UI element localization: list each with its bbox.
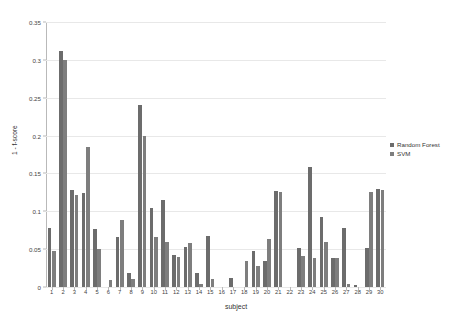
bar-svm-subject-12 bbox=[177, 257, 181, 287]
bar-random-forest-subject-30 bbox=[376, 189, 380, 287]
x-axis-tick-mark bbox=[256, 287, 257, 290]
x-axis-tick-mark bbox=[131, 287, 132, 290]
bar-random-forest-subject-9 bbox=[138, 105, 142, 287]
bar-random-forest-subject-21 bbox=[274, 191, 278, 287]
bar-random-forest-subject-4 bbox=[82, 193, 86, 287]
chart-figure: 00.050.10.150.20.250.30.35 1 - f-score s… bbox=[0, 0, 472, 330]
bar-svm-subject-2 bbox=[63, 60, 67, 287]
y-axis-tick-label: 0.15 bbox=[29, 170, 41, 177]
bar-random-forest-subject-29 bbox=[365, 248, 369, 287]
bar-random-forest-subject-1 bbox=[48, 228, 52, 287]
x-axis-tick-mark bbox=[97, 287, 98, 290]
gridline bbox=[46, 22, 386, 23]
plot-area: 00.050.10.150.20.250.30.35 bbox=[46, 22, 386, 287]
bar-svm-subject-15 bbox=[211, 279, 215, 287]
bar-random-forest-subject-11 bbox=[161, 200, 165, 287]
x-axis-tick-mark bbox=[324, 287, 325, 290]
y-axis-tick-label: 0.2 bbox=[32, 132, 41, 139]
bar-random-forest-subject-26 bbox=[331, 258, 335, 287]
bar-random-forest-subject-10 bbox=[150, 208, 154, 287]
bar-random-forest-subject-24 bbox=[308, 167, 312, 287]
x-axis-tick-mark bbox=[210, 287, 211, 290]
x-axis-tick-mark bbox=[165, 287, 166, 290]
y-axis-tick-label: 0.3 bbox=[32, 56, 41, 63]
y-axis-tick-mark bbox=[43, 173, 46, 174]
x-axis-tick-mark bbox=[369, 287, 370, 290]
bar-svm-subject-4 bbox=[86, 147, 90, 287]
bar-svm-subject-23 bbox=[301, 256, 305, 287]
bar-random-forest-subject-19 bbox=[252, 251, 256, 287]
legend-swatch-icon bbox=[390, 143, 394, 147]
x-axis-tick-mark bbox=[380, 287, 381, 290]
bar-random-forest-subject-12 bbox=[172, 255, 176, 287]
bar-svm-subject-3 bbox=[75, 195, 79, 287]
gridline bbox=[46, 173, 386, 174]
x-axis-tick-mark bbox=[233, 287, 234, 290]
bar-random-forest-subject-14 bbox=[195, 273, 199, 287]
bar-random-forest-subject-20 bbox=[263, 261, 267, 287]
y-axis-tick-label: 0.1 bbox=[32, 208, 41, 215]
bar-svm-subject-7 bbox=[120, 220, 124, 287]
chart-legend: Random ForestSVM bbox=[390, 141, 440, 159]
x-axis-tick-mark bbox=[86, 287, 87, 290]
bar-random-forest-subject-2 bbox=[59, 51, 63, 287]
x-axis-tick-mark bbox=[120, 287, 121, 290]
legend-item[interactable]: Random Forest bbox=[390, 141, 440, 148]
x-axis-tick-mark bbox=[301, 287, 302, 290]
x-axis-tick-mark bbox=[154, 287, 155, 290]
y-axis-tick-mark bbox=[43, 59, 46, 60]
y-axis-tick-mark bbox=[43, 135, 46, 136]
x-axis-tick-mark bbox=[188, 287, 189, 290]
gridline bbox=[46, 60, 386, 61]
bar-random-forest-subject-5 bbox=[93, 229, 97, 287]
x-axis-tick-mark bbox=[358, 287, 359, 290]
x-axis-tick-mark bbox=[142, 287, 143, 290]
x-axis-tick-mark bbox=[278, 287, 279, 290]
bar-svm-subject-6 bbox=[109, 280, 113, 287]
bar-svm-subject-18 bbox=[245, 261, 249, 288]
bar-svm-subject-29 bbox=[369, 192, 373, 287]
bar-svm-subject-19 bbox=[256, 266, 260, 287]
gridline bbox=[46, 98, 386, 99]
legend-swatch-icon bbox=[390, 152, 394, 156]
bar-random-forest-subject-13 bbox=[184, 247, 188, 287]
bar-random-forest-subject-7 bbox=[116, 237, 120, 287]
y-axis-title: 1 - f-score bbox=[11, 125, 18, 155]
bar-random-forest-subject-17 bbox=[229, 278, 233, 287]
y-axis-tick-label: 0.35 bbox=[29, 19, 41, 26]
bar-svm-subject-10 bbox=[154, 237, 158, 287]
bar-svm-subject-21 bbox=[279, 192, 283, 287]
bar-random-forest-subject-3 bbox=[70, 190, 74, 287]
y-axis-tick-mark bbox=[43, 211, 46, 212]
bar-svm-subject-13 bbox=[188, 243, 192, 287]
bar-svm-subject-8 bbox=[131, 279, 135, 287]
legend-item-label: Random Forest bbox=[397, 141, 440, 148]
x-axis-tick-mark bbox=[176, 287, 177, 290]
y-axis-tick-label: 0 bbox=[38, 284, 41, 291]
bar-random-forest-subject-27 bbox=[342, 228, 346, 287]
gridline bbox=[46, 211, 386, 212]
y-axis-tick-mark bbox=[43, 97, 46, 98]
y-axis-tick-mark bbox=[43, 287, 46, 288]
bar-svm-subject-25 bbox=[324, 242, 328, 287]
bar-random-forest-subject-25 bbox=[320, 217, 324, 287]
bar-svm-subject-9 bbox=[143, 136, 147, 287]
bar-random-forest-subject-8 bbox=[127, 273, 131, 287]
legend-item-label: SVM bbox=[397, 150, 410, 157]
legend-item[interactable]: SVM bbox=[390, 150, 440, 157]
x-axis-title: subject bbox=[0, 303, 472, 310]
x-axis-tick-mark bbox=[335, 287, 336, 290]
x-axis-tick-mark bbox=[290, 287, 291, 290]
x-axis-tick-mark bbox=[267, 287, 268, 290]
bar-svm-subject-24 bbox=[313, 258, 317, 287]
x-axis-tick-mark bbox=[74, 287, 75, 290]
x-axis-tick-mark bbox=[312, 287, 313, 290]
x-axis-tick-mark bbox=[63, 287, 64, 290]
bar-random-forest-subject-15 bbox=[206, 236, 210, 287]
x-axis-tick-mark bbox=[108, 287, 109, 290]
bar-svm-subject-1 bbox=[52, 251, 56, 287]
x-axis-tick-mark bbox=[222, 287, 223, 290]
y-axis-tick-mark bbox=[43, 249, 46, 250]
y-axis-tick-label: 0.05 bbox=[29, 246, 41, 253]
y-axis-tick-mark bbox=[43, 22, 46, 23]
